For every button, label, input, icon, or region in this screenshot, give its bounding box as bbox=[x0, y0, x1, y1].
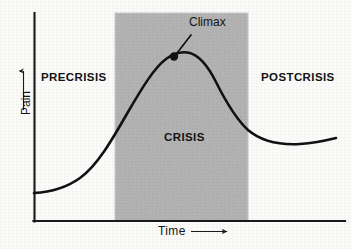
climax-marker-dot bbox=[170, 52, 178, 60]
region-label-precrisis: PRECRISIS bbox=[41, 71, 107, 83]
x-axis-label: Time bbox=[158, 224, 186, 238]
region-label-postcrisis: POSTCRISIS bbox=[261, 71, 335, 83]
region-label-crisis: CRISIS bbox=[164, 131, 205, 143]
pain-crisis-curve-chart bbox=[0, 0, 352, 249]
crisis-shaded-band bbox=[115, 13, 248, 221]
annotation-label-climax: Climax bbox=[189, 15, 226, 29]
y-axis-label: Pain bbox=[19, 75, 33, 131]
figure-canvas: PRECRISIS CRISIS POSTCRISIS Climax Time … bbox=[0, 0, 352, 249]
